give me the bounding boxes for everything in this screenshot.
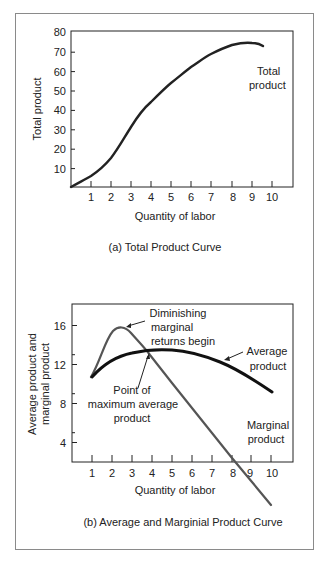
average-product-arrow bbox=[227, 352, 243, 359]
marginal-product-label: Marginal bbox=[247, 419, 289, 431]
x-tick-label: 1 bbox=[88, 191, 94, 203]
annotation-max-average: product bbox=[114, 412, 151, 424]
x-tick-label: 4 bbox=[148, 191, 154, 203]
y-tick-label: 60 bbox=[54, 66, 66, 78]
y-axis-title-b: Average product and bbox=[26, 333, 38, 435]
y-tick-label: 8 bbox=[60, 398, 66, 410]
x-axis-b bbox=[92, 455, 271, 462]
caption-a: (a) Total Product Curve bbox=[109, 241, 222, 253]
y-tick-label: 4 bbox=[60, 437, 66, 449]
annotation-diminishing: Diminishing bbox=[150, 307, 207, 319]
y-tick-label: 80 bbox=[54, 26, 66, 38]
y-tick-label: 40 bbox=[54, 104, 66, 116]
y-axis-title-a: Total product bbox=[31, 78, 43, 141]
y-tick-label: 50 bbox=[54, 85, 66, 97]
x-tick-label: 3 bbox=[129, 467, 135, 479]
arrowhead-icon bbox=[224, 356, 230, 361]
x-axis-title-a: Quantity of labor bbox=[135, 210, 216, 222]
x-tick-label: 8 bbox=[230, 191, 236, 203]
x-tick-label: 7 bbox=[209, 467, 215, 479]
y-tick-label: 30 bbox=[54, 124, 66, 136]
x-tick-label: 10 bbox=[266, 191, 278, 203]
x-tick-label: 5 bbox=[169, 467, 175, 479]
y-tick-label: 12 bbox=[54, 359, 66, 371]
average-product-label: product bbox=[250, 360, 287, 372]
figure-svg: 10 20 30 40 50 60 70 80 1 2 3 4 5 bbox=[0, 0, 329, 563]
y-tick-label: 70 bbox=[54, 46, 66, 58]
x-tick-label: 3 bbox=[128, 191, 134, 203]
x-tick-label: 2 bbox=[109, 467, 115, 479]
y-tick-label: 20 bbox=[54, 143, 66, 155]
chart-total-product: 10 20 30 40 50 60 70 80 1 2 3 4 5 bbox=[31, 26, 293, 253]
chart-average-marginal-product: 4 8 12 16 1 2 3 4 5 6 7 8 9 bbox=[26, 304, 293, 528]
y-tick-label: 16 bbox=[54, 320, 66, 332]
x-tick-label: 1 bbox=[89, 467, 95, 479]
x-tick-label: 8 bbox=[230, 467, 236, 479]
total-product-label: product bbox=[249, 79, 286, 91]
x-tick-label: 2 bbox=[108, 191, 114, 203]
caption-b: (b) Average and Marginial Product Curve bbox=[83, 516, 282, 528]
average-product-label: Average bbox=[247, 345, 288, 357]
y-tick-label: 10 bbox=[54, 163, 66, 175]
x-tick-label: 9 bbox=[249, 191, 255, 203]
total-product-label: Total bbox=[257, 65, 280, 77]
y-axis-b bbox=[72, 326, 77, 443]
annotation-diminishing: returns begin bbox=[151, 335, 215, 347]
x-tick-label: 7 bbox=[208, 191, 214, 203]
marginal-product-label: product bbox=[248, 433, 285, 445]
x-axis-a bbox=[91, 181, 272, 187]
x-tick-label: 5 bbox=[168, 191, 174, 203]
x-tick-label: 10 bbox=[266, 467, 278, 479]
arrowhead-icon bbox=[126, 323, 131, 328]
x-tick-label: 6 bbox=[188, 191, 194, 203]
total-product-curve bbox=[71, 43, 263, 187]
annotation-diminishing: marginal bbox=[151, 321, 193, 333]
y-axis-a bbox=[71, 52, 75, 168]
annotation-max-average: maximum average bbox=[88, 398, 178, 410]
x-tick-label: 4 bbox=[149, 467, 155, 479]
x-tick-label: 6 bbox=[189, 467, 195, 479]
y-axis-title-b: marginal product bbox=[39, 343, 51, 425]
annotation-max-average: Point of bbox=[113, 384, 151, 396]
x-axis-title-b: Quantity of labor bbox=[135, 484, 216, 496]
